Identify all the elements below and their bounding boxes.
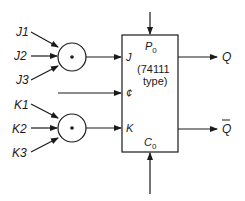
gate-dot-icon: [70, 55, 74, 59]
input-label-j1: J1: [15, 25, 29, 39]
gate-dot-icon: [70, 126, 74, 130]
pin-preset-label: P0: [145, 40, 157, 55]
input-label-j3: J3: [15, 73, 29, 87]
wire-k3: [31, 138, 58, 152]
input-label-j2: J2: [13, 49, 27, 63]
pin-clear-label: C0: [144, 136, 157, 151]
output-q-bar-label: Q: [222, 122, 231, 136]
input-label-k1: K1: [14, 98, 29, 112]
type-label-line2: type): [143, 75, 167, 87]
input-label-k2: K2: [12, 122, 27, 136]
output-q-label: Q: [222, 50, 231, 64]
input-label-k3: K3: [12, 146, 27, 160]
type-label-line1: (74111: [137, 63, 170, 75]
wire-k1: [31, 104, 58, 118]
wire-j1: [31, 32, 58, 47]
pin-k-label: K: [126, 122, 134, 134]
pin-clock-label: ¢: [126, 87, 132, 99]
wire-j3: [31, 66, 58, 80]
pin-j-label: J: [125, 51, 132, 63]
jk-flipflop-diagram: J1 J2 J3 K1 K2 K3 P0 J (74111 type) ¢ K …: [0, 0, 245, 201]
